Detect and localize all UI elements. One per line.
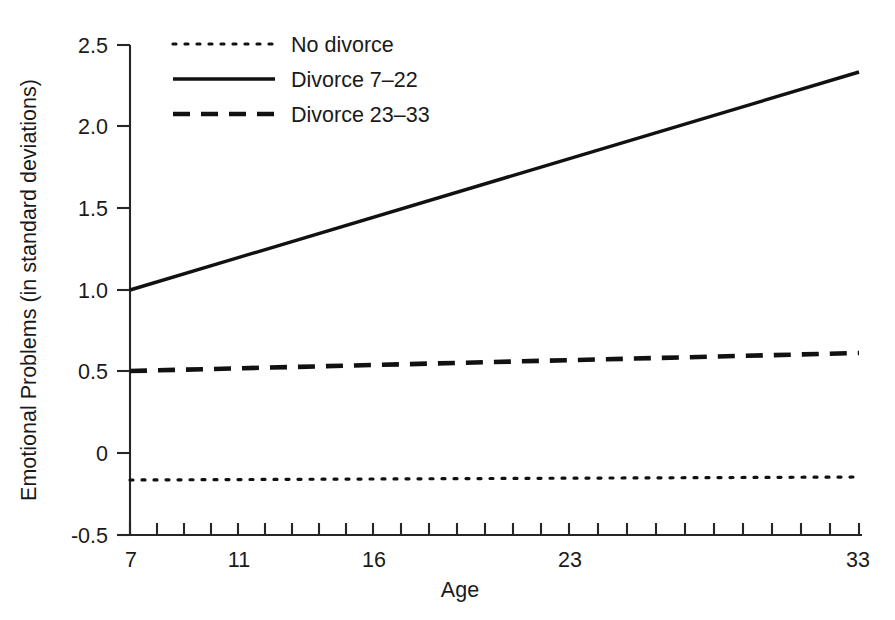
legend-label-divorce-23-33: Divorce 23–33 xyxy=(291,103,430,127)
x-ticklabel-16: 16 xyxy=(362,548,386,572)
y-axis-title: Emotional Problems (in standard deviatio… xyxy=(17,79,41,501)
x-ticklabel-11: 11 xyxy=(228,548,250,572)
legend-item-divorce-23-33: Divorce 23–33 xyxy=(173,103,430,127)
legend-label-divorce-7-22: Divorce 7–22 xyxy=(291,68,418,92)
x-axis-ticks xyxy=(130,521,859,535)
series-line-divorce-7-22 xyxy=(130,72,859,290)
x-ticklabel-23: 23 xyxy=(558,548,582,572)
x-ticklabel-33: 33 xyxy=(846,548,870,572)
y-axis-ticks xyxy=(117,45,130,535)
x-ticklabel-7: 7 xyxy=(125,548,137,572)
series-line-no-divorce xyxy=(130,477,859,480)
series-group xyxy=(130,72,859,480)
y-axis-ticklabels: 2.5 2.0 1.5 1.0 0.5 0 -0.5 xyxy=(71,34,108,548)
x-axis: 7 11 16 23 33 Age xyxy=(125,521,870,602)
line-chart-canvas: 2.5 2.0 1.5 1.0 0.5 0 -0.5 Emotional Pro… xyxy=(0,0,895,620)
y-axis: 2.5 2.0 1.5 1.0 0.5 0 -0.5 Emotional Pro… xyxy=(17,34,130,548)
chart-figure: 2.5 2.0 1.5 1.0 0.5 0 -0.5 Emotional Pro… xyxy=(0,0,895,620)
series-line-divorce-23-33 xyxy=(130,353,859,371)
legend-item-no-divorce: No divorce xyxy=(173,33,394,57)
legend: No divorce Divorce 7–22 Divorce 23–33 xyxy=(173,33,430,127)
legend-label-no-divorce: No divorce xyxy=(291,33,394,57)
y-ticklabel-1.0: 1.0 xyxy=(78,279,108,303)
x-axis-ticklabels: 7 11 16 23 33 xyxy=(125,548,870,572)
x-axis-title: Age xyxy=(441,578,479,602)
legend-item-divorce-7-22: Divorce 7–22 xyxy=(173,68,418,92)
y-ticklabel-neg0.5: -0.5 xyxy=(71,524,108,548)
y-ticklabel-0.5: 0.5 xyxy=(78,360,108,384)
y-ticklabel-0: 0 xyxy=(96,442,108,466)
y-ticklabel-2.5: 2.5 xyxy=(78,34,108,58)
y-ticklabel-1.5: 1.5 xyxy=(78,197,108,221)
y-ticklabel-2.0: 2.0 xyxy=(78,115,108,139)
